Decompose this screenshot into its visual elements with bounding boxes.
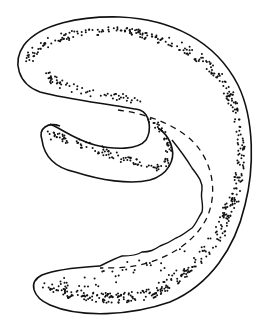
stipple-dot	[42, 286, 44, 288]
stipple-dot	[50, 139, 52, 141]
stipple-dot	[118, 98, 120, 100]
stipple-dot	[56, 82, 58, 84]
stipple-dot	[209, 63, 211, 65]
stipple-dot	[235, 112, 237, 114]
stipple-dot	[225, 214, 227, 216]
stipple-dot	[76, 31, 78, 33]
stipple-dot	[229, 215, 231, 217]
stipple-dot	[60, 84, 62, 86]
stipple-dot	[231, 100, 233, 102]
stipple-dot	[232, 106, 234, 108]
stipple-dot	[184, 250, 186, 252]
stipple-dot	[28, 59, 30, 61]
stipple-dot	[34, 52, 36, 54]
stipple-dot	[47, 37, 49, 39]
stipple-dot	[202, 60, 204, 62]
stipple-dot	[104, 299, 106, 301]
stipple-dot	[165, 41, 167, 43]
stipple-dot	[171, 45, 173, 47]
stipple-dot	[225, 87, 227, 89]
stipple-dot	[60, 280, 62, 282]
stipple-dot	[171, 275, 173, 277]
stipple-dot	[126, 27, 128, 29]
stipple-dot	[101, 152, 103, 154]
stipple-dot	[107, 293, 109, 295]
stipple-dot	[235, 174, 237, 176]
stipple-dot	[64, 292, 66, 294]
stipple-dot	[37, 48, 39, 50]
stipple-dot	[65, 137, 67, 139]
stipple-dot	[59, 87, 61, 89]
stipple-dot	[92, 29, 94, 31]
stipple-dot	[37, 51, 39, 53]
stipple-dot	[146, 32, 148, 34]
stipple-dot	[83, 292, 85, 294]
stipple-dot	[77, 142, 79, 144]
stipple-dot	[237, 142, 239, 144]
stipple-dot	[236, 201, 238, 203]
stipple-dot	[83, 295, 85, 297]
stipple-dot	[73, 31, 75, 33]
stipple-dot	[102, 30, 104, 32]
stipple-dot	[123, 159, 125, 161]
stipple-dot	[227, 92, 229, 94]
stipple-dot	[212, 65, 214, 67]
stipple-dot	[200, 261, 202, 263]
stipple-dot	[241, 144, 243, 146]
stipple-dot	[169, 148, 171, 150]
stipple-dot	[228, 220, 230, 222]
stipple-dot	[64, 282, 66, 284]
stipple-dot	[218, 239, 220, 241]
stipple-dot	[56, 136, 58, 138]
stipple-dot	[97, 34, 99, 36]
stipple-dot	[80, 145, 82, 147]
stipple-dot	[28, 54, 30, 56]
stipple-dot	[126, 159, 128, 161]
stipple-dot	[146, 166, 148, 168]
stipple-dot	[242, 142, 244, 144]
stipple-dot	[239, 119, 241, 121]
stipple-dot	[36, 53, 38, 55]
stipple-dot	[76, 140, 78, 142]
stipple-dot	[66, 140, 68, 142]
stipple-dot	[188, 267, 190, 269]
stipple-dot	[157, 290, 159, 292]
stipple-dot	[92, 89, 94, 91]
stipple-dot	[215, 246, 217, 248]
stipple-dot	[131, 291, 133, 293]
stipple-dot	[215, 226, 217, 228]
stipple-dot	[234, 179, 236, 181]
stipple-dot	[105, 154, 107, 156]
stipple-dot	[72, 36, 74, 38]
stipple-dot	[165, 165, 167, 167]
stipple-dot	[237, 138, 239, 140]
stipple-dot	[134, 269, 136, 271]
stipple-dot	[77, 294, 79, 296]
stipple-dot	[210, 71, 212, 73]
stipple-dot	[117, 293, 119, 295]
stipple-dot	[137, 164, 139, 166]
stipple-dot	[147, 119, 149, 121]
stipple-dot	[170, 147, 172, 149]
stipple-dot	[226, 206, 228, 208]
stipple-dot	[199, 251, 201, 253]
stipple-dot	[166, 290, 168, 292]
stipple-dot	[139, 31, 141, 33]
stipple-dot	[179, 49, 181, 51]
stipple-dot	[157, 38, 159, 40]
stipple-dot	[175, 269, 177, 271]
stipple-dot	[106, 148, 108, 150]
stipple-dot	[191, 49, 193, 51]
stipple-dot	[205, 60, 207, 62]
stipple-dot	[134, 29, 136, 31]
stipple-dot	[51, 284, 53, 286]
stipple-dot	[66, 38, 68, 40]
stipple-dot	[187, 272, 189, 274]
stipple-dot	[95, 284, 97, 286]
stipple-dot	[59, 137, 61, 139]
stipple-dot	[224, 230, 226, 232]
stipple-dot	[176, 280, 178, 282]
stipple-dot	[207, 238, 209, 240]
stipple-dot	[115, 294, 117, 296]
stipple-dot	[117, 154, 119, 156]
